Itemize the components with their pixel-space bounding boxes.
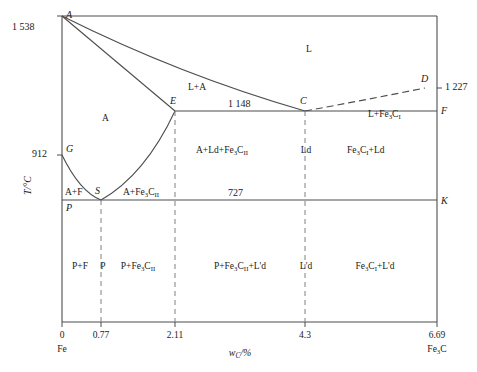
- x-tick-label-4-3: 4.3: [299, 331, 311, 341]
- region-label-liquid-plus-fe3c1: L+Fe3CI: [368, 110, 401, 120]
- x-axis-endpoint-fe3c: Fe3C: [427, 345, 446, 355]
- region-label-liquid-plus-austenite: L+A: [188, 83, 206, 93]
- point-label-F: F: [441, 106, 447, 116]
- region-label-pearlite-plus-ferrite: P+F: [72, 262, 88, 272]
- region-text-part: A+Ld+Fe: [196, 145, 234, 155]
- region-label-fe3c1-plus-ld: Fe3CI+Ld: [347, 146, 384, 156]
- region-text-part: A+Fe: [123, 187, 145, 197]
- point-label-C: C: [300, 96, 307, 106]
- region-label-austenite-plus-ferrite: A+F: [65, 188, 83, 198]
- region-subscript: II: [151, 265, 156, 272]
- region-label-liquid: L: [306, 45, 312, 55]
- y-axis-title: T/°C: [22, 176, 33, 195]
- temperature-label-912: 912: [32, 149, 47, 159]
- region-text-part: +Ld: [369, 145, 385, 155]
- region-text-part: P+Fe: [121, 261, 141, 271]
- endpoint-text-part: C: [440, 344, 446, 354]
- region-text-part: L+Fe: [368, 109, 389, 119]
- region-text-part: Fe: [355, 261, 365, 271]
- region-label-pearlite: P: [100, 262, 105, 272]
- liquidus-CD-dashed-curve: [305, 88, 425, 111]
- region-label-fe3c1-plus-lprimed: Fe3CI+L'd: [355, 262, 394, 272]
- liquidus-AC-curve: [62, 16, 305, 111]
- endpoint-text-part: Fe: [427, 344, 437, 354]
- region-subscript: II: [243, 149, 248, 156]
- region-text-part: Fe: [347, 145, 357, 155]
- region-label-a-plus-fe3c2: A+Fe3CII: [123, 188, 159, 198]
- region-label-lprimed: L'd: [300, 262, 312, 272]
- phase-diagram-svg: [0, 0, 477, 372]
- region-text-part: +L'd: [377, 261, 395, 271]
- temperature-label-727: 727: [228, 188, 243, 198]
- x-tick-label-0: 0: [60, 331, 65, 341]
- solidus-AE-line: [62, 16, 175, 111]
- region-label-p-plus-fe3c2: P+Fe3CII: [121, 262, 155, 272]
- region-label-p-fe3c2-lprimed: P+Fe3CII+L'd: [214, 262, 266, 272]
- region-subscript: II: [154, 191, 159, 198]
- region-label-ledeburite: Ld: [301, 146, 312, 156]
- x-axis-title-part: /%: [240, 347, 251, 358]
- region-text-part: +L'd: [248, 261, 266, 271]
- phase-diagram-page: T/°C 1 538 912 1 227 1 148 727 A E C D F…: [0, 0, 477, 372]
- temperature-label-1148: 1 148: [228, 99, 251, 109]
- region-text-part: P+Fe: [214, 261, 234, 271]
- point-label-P: P: [66, 203, 72, 213]
- temperature-label-1538: 1 538: [12, 22, 35, 32]
- region-subscript: I: [398, 113, 400, 120]
- point-label-S: S: [95, 186, 100, 196]
- x-tick-label-6-69: 6.69: [429, 331, 446, 341]
- x-axis-title: wC/%: [229, 348, 252, 360]
- x-axis-endpoint-fe: Fe: [57, 345, 67, 355]
- x-tick-label-0-77: 0.77: [93, 331, 110, 341]
- region-label-a-ld-fe3c2: A+Ld+Fe3CII: [196, 146, 248, 156]
- x-axis-title-part: w: [229, 347, 236, 358]
- point-label-A: A: [66, 10, 72, 20]
- point-label-E: E: [170, 96, 176, 106]
- x-tick-label-2-11: 2.11: [167, 331, 183, 341]
- temperature-label-1227: 1 227: [445, 82, 468, 92]
- point-label-G: G: [66, 144, 73, 154]
- point-label-D: D: [421, 74, 428, 84]
- point-label-K: K: [441, 196, 448, 206]
- region-label-austenite: A: [102, 114, 109, 124]
